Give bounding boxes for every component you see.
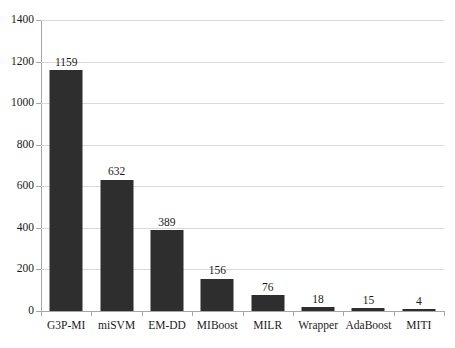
x-axis-label: Wrapper	[293, 319, 343, 332]
bar-value-label: 1159	[55, 56, 78, 68]
x-axis-tick	[444, 311, 445, 316]
y-tick-label: 1000	[0, 97, 34, 109]
y-tick-label: 1400	[0, 14, 34, 26]
bar-value-label: 389	[158, 216, 175, 228]
x-axis-tick	[192, 311, 193, 316]
y-tick-label: 800	[0, 139, 34, 151]
x-axis-tick	[343, 311, 344, 316]
x-axis-label: miSVM	[91, 319, 141, 332]
bar-value-label: 4	[416, 295, 422, 307]
bar-slot: 15	[343, 20, 393, 311]
x-axis-label: EM-DD	[142, 319, 192, 332]
x-axis-tick	[41, 311, 42, 316]
x-axis-label: G3P-MI	[41, 319, 91, 332]
x-axis-tick	[91, 311, 92, 316]
bar-series: 1159 632 389 156 76 18 15 4	[41, 20, 444, 311]
bar-value-label: 632	[108, 165, 125, 177]
x-axis-label: MILR	[243, 319, 293, 332]
bar-slot: 1159	[41, 20, 91, 311]
bar-slot: 156	[192, 20, 242, 311]
bar-chart: 1400 1200 1000 800 600 400 200 0	[0, 0, 455, 348]
bar-slot: 389	[142, 20, 192, 311]
x-axis-tick	[243, 311, 244, 316]
bar-value-label: 18	[312, 293, 324, 305]
bar-slot: 632	[91, 20, 141, 311]
x-axis-tick	[293, 311, 294, 316]
x-axis-label: MIBoost	[192, 319, 242, 332]
bar[interactable]	[201, 279, 234, 311]
bar-slot: 76	[243, 20, 293, 311]
x-axis-tick	[142, 311, 143, 316]
bar[interactable]	[150, 230, 183, 311]
bar-value-label: 15	[363, 294, 375, 306]
x-axis-label: MITI	[394, 319, 444, 332]
bar[interactable]	[100, 180, 133, 311]
y-tick-label: 1200	[0, 56, 34, 68]
y-tick-label: 0	[0, 305, 34, 317]
bar-value-label: 156	[209, 264, 226, 276]
x-axis: G3P-MI miSVM EM-DD MIBoost MILR Wrapper …	[41, 311, 444, 341]
x-axis-tick	[394, 311, 395, 316]
x-axis-label: AdaBoost	[343, 319, 393, 332]
y-tick-label: 400	[0, 222, 34, 234]
bar-slot: 18	[293, 20, 343, 311]
y-tick-label: 600	[0, 180, 34, 192]
bar[interactable]	[251, 295, 284, 311]
bar[interactable]	[50, 70, 83, 311]
bar-value-label: 76	[262, 281, 274, 293]
y-axis-labels: 1400 1200 1000 800 600 400 200 0	[0, 0, 34, 348]
bar-slot: 4	[394, 20, 444, 311]
y-tick-label: 200	[0, 263, 34, 275]
